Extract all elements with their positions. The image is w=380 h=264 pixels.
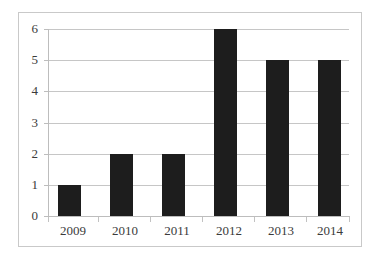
gridline-value-4 bbox=[48, 91, 349, 92]
category-label-2011: 2011 bbox=[152, 224, 202, 237]
category-tick-0 bbox=[48, 217, 49, 222]
category-label-2009: 2009 bbox=[48, 224, 98, 237]
value-tick-label-6: 6 bbox=[14, 22, 38, 35]
category-tick-5 bbox=[306, 217, 307, 222]
category-label-2010: 2010 bbox=[100, 224, 150, 237]
gridline-value-1 bbox=[48, 185, 349, 186]
bar-2012 bbox=[214, 29, 237, 216]
bar-2009 bbox=[58, 185, 81, 216]
value-tick-label-2: 2 bbox=[14, 147, 38, 160]
value-tick-4 bbox=[44, 91, 49, 92]
category-tick-2 bbox=[150, 217, 151, 222]
bar-2014 bbox=[318, 60, 341, 216]
category-axis-line bbox=[48, 216, 350, 217]
gridline-value-6 bbox=[48, 29, 349, 30]
value-tick-label-1: 1 bbox=[14, 178, 38, 191]
bar-chart-figure: 6 5 4 3 2 1 0 2009 2010 2011 2012 2013 2… bbox=[0, 0, 380, 264]
value-tick-5 bbox=[44, 60, 49, 61]
category-label-2013: 2013 bbox=[256, 224, 306, 237]
category-tick-1 bbox=[98, 217, 99, 222]
value-tick-2 bbox=[44, 154, 49, 155]
category-tick-4 bbox=[254, 217, 255, 222]
gridline-value-3 bbox=[48, 123, 349, 124]
plot-area bbox=[48, 29, 349, 216]
value-tick-6 bbox=[44, 29, 49, 30]
bar-2010 bbox=[110, 154, 133, 216]
category-label-2014: 2014 bbox=[305, 224, 355, 237]
value-tick-label-0: 0 bbox=[14, 209, 38, 222]
value-tick-label-3: 3 bbox=[14, 116, 38, 129]
bar-2013 bbox=[266, 60, 289, 216]
value-tick-3 bbox=[44, 123, 49, 124]
gridline-value-2 bbox=[48, 154, 349, 155]
bar-2011 bbox=[162, 154, 185, 216]
category-tick-3 bbox=[202, 217, 203, 222]
value-tick-label-5: 5 bbox=[14, 53, 38, 66]
value-tick-label-4: 4 bbox=[14, 84, 38, 97]
category-label-2012: 2012 bbox=[204, 224, 254, 237]
category-tick-6 bbox=[349, 217, 350, 222]
gridline-value-5 bbox=[48, 60, 349, 61]
value-tick-1 bbox=[44, 185, 49, 186]
